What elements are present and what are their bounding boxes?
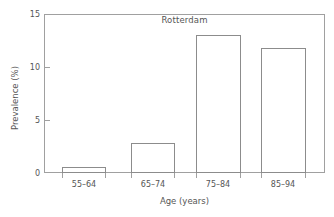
y-axis-title: Prevalence (%): [10, 33, 20, 163]
x-tick-mark-4: [196, 173, 197, 178]
y-tick-label-0: 0: [24, 169, 40, 178]
x-tick-mark-6: [261, 173, 262, 178]
bar-75-84: [196, 35, 241, 173]
x-tick-label-0: 55–64: [72, 180, 96, 189]
x-tick-label-2: 75–84: [206, 180, 230, 189]
x-tick-label-1: 65–74: [141, 180, 165, 189]
x-tick-mark-5: [240, 173, 241, 178]
x-tick-mark-2: [131, 173, 132, 178]
x-tick-mark-7: [305, 173, 306, 178]
chart-figure: Rotterdam Prevalence (%) 15 10 5 0 55–64…: [0, 0, 334, 217]
x-axis-title: Age (years): [44, 196, 325, 206]
y-tick-label-15: 15: [24, 10, 40, 19]
x-tick-mark-1: [105, 173, 106, 178]
x-tick-mark-0: [62, 173, 63, 178]
y-tick-label-10: 10: [24, 63, 40, 72]
chart-title: Rotterdam: [44, 15, 325, 25]
y-tick-label-5: 5: [24, 116, 40, 125]
x-tick-mark-3: [174, 173, 175, 178]
x-tick-label-3: 85–94: [271, 180, 295, 189]
y-tick-mark-10: [45, 67, 50, 68]
bar-55-64: [62, 167, 106, 173]
y-tick-mark-5: [45, 120, 50, 121]
bar-85-94: [261, 48, 306, 173]
bar-65-74: [131, 143, 175, 173]
